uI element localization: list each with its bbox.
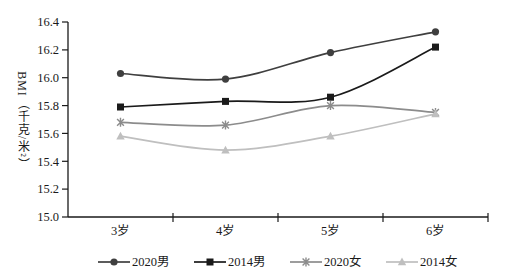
chart-legend: 2020男2014男2020女2014女: [68, 256, 488, 269]
series-2014女: [116, 110, 439, 154]
asterisk-legend-icon: [290, 256, 322, 268]
y-axis-title: BMI（千克/米²）: [14, 71, 31, 171]
chart-plot-area: 15.015.215.415.615.816.016.216.43岁4岁5岁6岁: [0, 0, 508, 278]
square-legend-icon: [194, 256, 226, 268]
y-tick-label: 16.4: [37, 15, 60, 29]
square-marker: [207, 258, 214, 265]
legend-label: 2020女: [324, 256, 362, 269]
series-2020男: [117, 28, 439, 83]
legend-item-0: 2020男: [98, 256, 170, 269]
y-tick-label: 15.0: [37, 210, 59, 224]
y-tick-label: 15.2: [37, 182, 59, 196]
x-category-label: 3岁: [111, 223, 130, 238]
x-category-label: 4岁: [216, 223, 235, 238]
y-tick-label: 15.8: [37, 99, 59, 113]
legend-label: 2020男: [132, 256, 170, 269]
legend-label: 2014男: [228, 256, 266, 269]
triangle-marker: [116, 132, 124, 140]
circle-marker: [110, 258, 117, 265]
circle-marker: [432, 28, 439, 35]
square-marker: [222, 98, 229, 105]
y-tick-label: 16.0: [37, 71, 59, 85]
square-marker: [327, 94, 334, 101]
series-line: [121, 47, 436, 107]
circle-legend-icon: [98, 256, 130, 268]
circle-marker: [117, 70, 124, 77]
triangle-marker: [431, 110, 439, 118]
y-tick-label: 16.2: [37, 43, 59, 57]
y-tick-label: 15.6: [37, 127, 59, 141]
x-category-label: 5岁: [321, 223, 340, 238]
legend-label: 2014女: [420, 256, 458, 269]
legend-item-1: 2014男: [194, 256, 266, 269]
square-marker: [117, 104, 124, 111]
y-tick-label: 15.4: [37, 155, 60, 169]
x-category-label: 6岁: [426, 223, 445, 238]
axes: 15.015.215.415.615.816.016.216.43岁4岁5岁6岁: [37, 15, 488, 238]
triangle-legend-icon: [386, 256, 418, 268]
bmi-line-chart-figure: 15.015.215.415.615.816.016.216.43岁4岁5岁6岁…: [0, 0, 508, 278]
series-line: [121, 114, 436, 150]
legend-item-2: 2020女: [290, 256, 362, 269]
circle-marker: [327, 49, 334, 56]
series-line: [121, 105, 436, 126]
legend-item-3: 2014女: [386, 256, 458, 269]
square-marker: [432, 44, 439, 51]
circle-marker: [222, 76, 229, 83]
